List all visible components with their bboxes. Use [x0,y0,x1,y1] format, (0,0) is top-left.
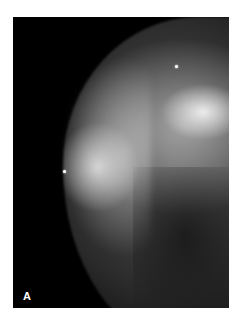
skin-marker-upper [175,65,178,68]
breast-tissue [13,17,229,308]
panel-label: A [23,290,31,302]
mammogram-image: A [13,17,229,308]
skin-marker-nipple [63,170,66,173]
fatty-region [133,167,229,308]
